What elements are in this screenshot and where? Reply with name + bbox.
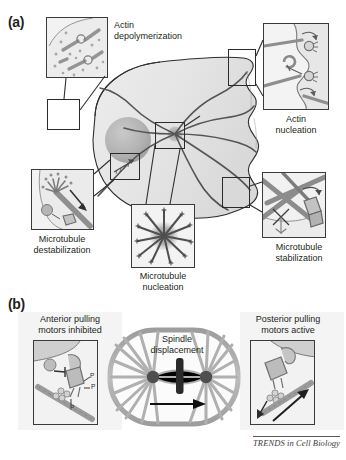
caption-spindle-displacement: Spindle displacement <box>140 334 214 355</box>
metaphase-plate <box>176 358 184 394</box>
embryo-spindle-diagram <box>0 0 346 460</box>
figure-root: (a) <box>0 0 346 460</box>
posterior-spindle-pole <box>200 371 212 383</box>
caption-spindle-line2: displacement <box>140 345 214 356</box>
journal-credit: TRENDS in Cell Biology <box>253 436 340 448</box>
anterior-spindle-pole <box>147 371 159 383</box>
caption-spindle-line1: Spindle <box>140 334 214 345</box>
